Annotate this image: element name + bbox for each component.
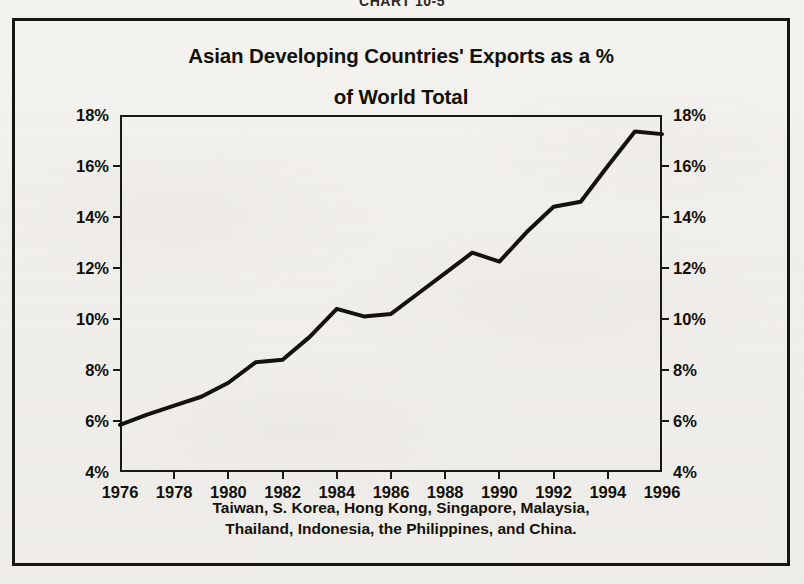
x-tick-1994 <box>607 472 609 479</box>
y-axis-right-label-10: 10% <box>673 311 706 328</box>
export-share-line <box>120 132 662 425</box>
y-tick-right-8 <box>662 369 669 371</box>
x-tick-1992 <box>553 472 555 479</box>
line-series-svg <box>120 115 662 472</box>
y-tick-right-12 <box>662 267 669 269</box>
y-axis-right-label-16: 16% <box>673 158 706 175</box>
y-axis-left-label-14: 14% <box>76 209 109 226</box>
y-tick-left-8 <box>113 369 120 371</box>
y-axis-right-label-4: 4% <box>673 464 697 481</box>
x-tick-1980 <box>227 472 229 479</box>
footnote-line-2: Thailand, Indonesia, the Philippines, an… <box>15 518 787 539</box>
y-axis-right-label-14: 14% <box>673 209 706 226</box>
footnote-line-1: Taiwan, S. Korea, Hong Kong, Singapore, … <box>15 497 787 518</box>
chart-title-line-1: Asian Developing Countries' Exports as a… <box>188 44 614 67</box>
x-tick-1988 <box>444 472 446 479</box>
y-tick-left-12 <box>113 267 120 269</box>
chart-title-line-2: of World Total <box>15 76 787 117</box>
y-tick-right-10 <box>662 318 669 320</box>
y-axis-right-label-12: 12% <box>673 260 706 277</box>
y-axis-left-label-10: 10% <box>76 311 109 328</box>
y-tick-left-16 <box>113 165 120 167</box>
x-tick-1986 <box>390 472 392 479</box>
y-axis-right-label-18: 18% <box>673 107 706 124</box>
scanned-page: CHART 10-5 Asian Developing Countries' E… <box>0 0 804 584</box>
y-axis-left-label-18: 18% <box>76 107 109 124</box>
y-axis-left-label-6: 6% <box>85 413 109 430</box>
y-tick-right-14 <box>662 216 669 218</box>
x-tick-1982 <box>282 472 284 479</box>
chart-figure-box: Asian Developing Countries' Exports as a… <box>12 18 790 566</box>
y-axis-left-label-4: 4% <box>85 464 109 481</box>
y-axis-left-label-8: 8% <box>85 362 109 379</box>
y-tick-left-6 <box>113 420 120 422</box>
y-axis-left-label-16: 16% <box>76 158 109 175</box>
y-tick-left-10 <box>113 318 120 320</box>
y-tick-right-16 <box>662 165 669 167</box>
x-tick-1978 <box>173 472 175 479</box>
chart-footnote: Taiwan, S. Korea, Hong Kong, Singapore, … <box>15 497 787 539</box>
chart-title: Asian Developing Countries' Exports as a… <box>15 35 787 117</box>
plot-area: 4%6%8%10%12%14%16%18% 4%6%8%10%12%14%16%… <box>120 115 662 472</box>
chart-number-heading: CHART 10-5 <box>0 0 804 9</box>
x-tick-1990 <box>498 472 500 479</box>
x-tick-1984 <box>336 472 338 479</box>
y-tick-right-6 <box>662 420 669 422</box>
y-axis-right-label-8: 8% <box>673 362 697 379</box>
y-tick-left-14 <box>113 216 120 218</box>
y-axis-left-label-12: 12% <box>76 260 109 277</box>
y-axis-right-label-6: 6% <box>673 413 697 430</box>
